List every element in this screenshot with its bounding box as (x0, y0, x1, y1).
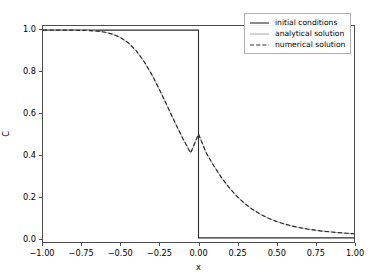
x-tick-label: 0.25 (229, 249, 247, 257)
x-tick-label: 1.00 (346, 249, 364, 257)
y-tick-label: 0.4 (8, 151, 36, 159)
x-tick-label: −0.75 (69, 249, 94, 257)
x-tick-label: 0.75 (307, 249, 325, 257)
x-tick-mark (81, 243, 82, 246)
x-tick-label: −0.25 (147, 249, 172, 257)
y-axis-label: C (1, 131, 11, 137)
y-tick-label: 0.2 (8, 193, 36, 201)
x-tick-mark (316, 243, 317, 246)
figure-canvas: 0.00.20.40.60.81.0 −1.00−0.75−0.50−0.250… (0, 0, 370, 279)
legend-label: analytical solution (275, 30, 344, 38)
x-tick-label: −1.00 (29, 249, 54, 257)
x-tick-mark (42, 243, 43, 246)
legend-entry: analytical solution (249, 28, 345, 39)
x-axis-label: x (42, 262, 355, 272)
legend-box: initial conditionsanalytical solutionnum… (244, 13, 351, 54)
x-tick-label: −0.50 (108, 249, 133, 257)
x-tick-mark (277, 243, 278, 246)
plot-lines (43, 26, 354, 242)
y-tick-label: 1.0 (8, 25, 36, 33)
y-tick-label: 0.8 (8, 67, 36, 75)
x-tick-label: 0.50 (268, 249, 286, 257)
y-tick-label: 0.0 (8, 235, 36, 243)
legend-entry: numerical solution (249, 39, 345, 50)
x-tick-mark (199, 243, 200, 246)
x-tick-mark (355, 243, 356, 246)
legend-label: initial conditions (275, 19, 337, 27)
x-tick-mark (159, 243, 160, 246)
legend-line-sample-icon (249, 29, 270, 39)
x-tick-label: 0.00 (189, 249, 207, 257)
x-tick-mark (238, 243, 239, 246)
legend-entry: initial conditions (249, 17, 345, 28)
x-tick-mark (120, 243, 121, 246)
legend-label: numerical solution (275, 41, 345, 49)
legend-line-sample-icon (249, 40, 270, 50)
legend-line-sample-icon (249, 18, 270, 28)
y-tick-label: 0.6 (8, 109, 36, 117)
plot-area (42, 25, 355, 243)
